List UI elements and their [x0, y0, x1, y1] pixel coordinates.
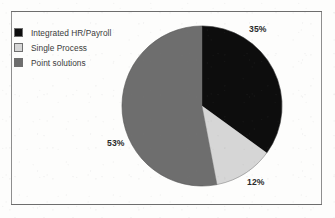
legend-swatch-icon-single-process [14, 43, 23, 52]
legend-item-point-solutions: Point solutions [14, 55, 154, 70]
slice-value-label-point-solutions: 53% [107, 138, 125, 148]
slice-value-label-single-process: 12% [247, 177, 265, 187]
slice-value-label-integrated-hr-payroll: 35% [249, 24, 267, 34]
chart-legend: Integrated HR/Payroll Single Process Poi… [14, 25, 154, 70]
legend-label-integrated-hr-payroll: Integrated HR/Payroll [31, 28, 111, 38]
legend-item-single-process: Single Process [14, 40, 154, 55]
legend-label-single-process: Single Process [31, 43, 87, 53]
legend-swatch-icon-integrated-hr-payroll [14, 28, 23, 37]
legend-label-point-solutions: Point solutions [31, 58, 86, 68]
document-page: 35% 12% 53% Integrated HR/Payroll Single… [0, 0, 335, 218]
legend-item-integrated-hr-payroll: Integrated HR/Payroll [14, 25, 154, 40]
legend-swatch-icon-point-solutions [14, 58, 23, 67]
